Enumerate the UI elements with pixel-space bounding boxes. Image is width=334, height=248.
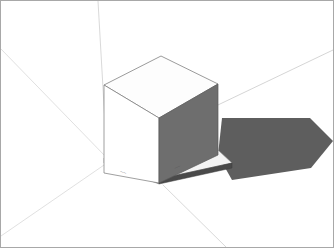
scene-canvas: —— —— xyxy=(1,1,333,247)
render-border: —— —— xyxy=(0,0,334,248)
render-viewport: —— —— xyxy=(0,0,334,248)
